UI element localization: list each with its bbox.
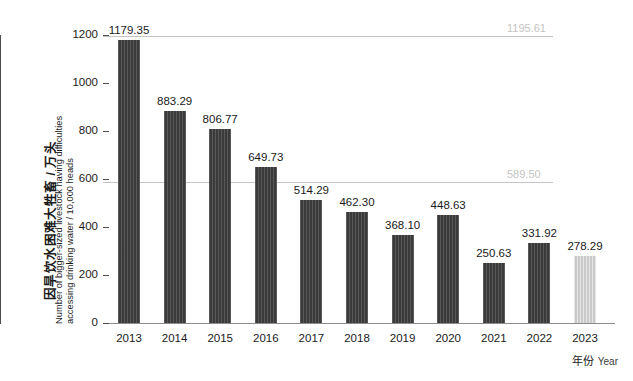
plot-area bbox=[103, 35, 593, 323]
y-axis-tick-label: 0 bbox=[62, 317, 98, 329]
bar-chart: 因旱饮水困难大牲畜 / 万头 Number of bigger-sized li… bbox=[0, 0, 633, 381]
y-axis-tick-label: 800 bbox=[62, 125, 98, 137]
x-axis-title-english: Year bbox=[598, 356, 618, 367]
bar[interactable] bbox=[255, 167, 277, 323]
bar-value-label: 331.92 bbox=[509, 227, 569, 239]
bar-value-label: 278.29 bbox=[555, 240, 615, 252]
y-axis-tick-label: 600 bbox=[62, 173, 98, 185]
bar-value-label: 883.29 bbox=[145, 95, 205, 107]
bar[interactable] bbox=[300, 200, 322, 323]
y-axis-line bbox=[0, 35, 1, 324]
x-axis-title: 年份Year bbox=[572, 352, 618, 368]
x-axis-title-chinese: 年份 bbox=[572, 355, 594, 367]
y-axis-tick-label: 1000 bbox=[62, 77, 98, 89]
bar[interactable] bbox=[574, 256, 596, 323]
bar[interactable] bbox=[209, 129, 231, 323]
bar[interactable] bbox=[483, 263, 505, 323]
x-axis-line bbox=[103, 323, 615, 324]
bar-value-label: 514.29 bbox=[281, 184, 341, 196]
bar[interactable] bbox=[118, 40, 140, 323]
bar-value-label: 250.63 bbox=[464, 247, 524, 259]
y-axis-tick-mark bbox=[103, 323, 109, 324]
bar[interactable] bbox=[392, 235, 414, 323]
bar-value-label: 462.30 bbox=[327, 196, 387, 208]
y-axis-tick-label: 400 bbox=[62, 221, 98, 233]
y-axis-tick-label: 1200 bbox=[62, 29, 98, 41]
bar[interactable] bbox=[164, 111, 186, 323]
bar[interactable] bbox=[346, 212, 368, 323]
bar[interactable] bbox=[528, 243, 550, 323]
bar-value-label: 1179.35 bbox=[99, 24, 159, 36]
bar-value-label: 448.63 bbox=[418, 199, 478, 211]
y-axis-tick-labels: 020040060080010001200 bbox=[58, 0, 98, 340]
bar-value-label: 368.10 bbox=[373, 219, 433, 231]
bar[interactable] bbox=[437, 215, 459, 323]
bar-value-label: 649.73 bbox=[236, 151, 296, 163]
y-axis-tick-label: 200 bbox=[62, 269, 98, 281]
x-axis-tick-label: 2023 bbox=[555, 332, 615, 344]
bar-value-label: 806.77 bbox=[190, 113, 250, 125]
reference-line-label: 1195.61 bbox=[507, 22, 546, 34]
